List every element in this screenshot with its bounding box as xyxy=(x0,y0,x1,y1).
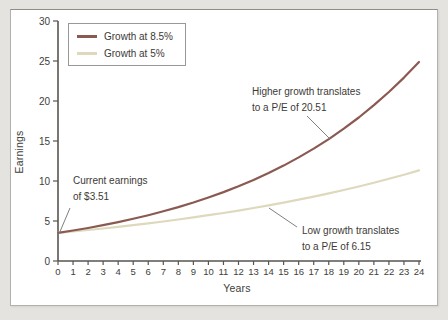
x-axis-title: Years xyxy=(207,282,267,294)
legend-item-growth-low: Growth at 5% xyxy=(77,46,179,60)
x-tick-label: 20 xyxy=(354,266,365,277)
x-tick-label: 5 xyxy=(131,266,136,277)
y-tick-label: 30 xyxy=(39,16,51,27)
x-tick-label: 22 xyxy=(384,266,395,277)
x-tick-label: 7 xyxy=(161,266,166,277)
x-tick-label: 11 xyxy=(219,266,229,277)
x-tick-label: 3 xyxy=(100,266,105,277)
x-tick-label: 21 xyxy=(369,266,380,277)
x-tick-label: 6 xyxy=(146,266,151,277)
annotation-line: Higher growth translates xyxy=(252,84,360,100)
y-tick-label: 15 xyxy=(39,136,51,147)
series-line-growth-at-8-5- xyxy=(58,62,419,233)
annotation-low-growth: Low growth translates to a P/E of 6.15 xyxy=(302,223,399,255)
screenshot-root: { "page": { "background_color": "#e5e3df… xyxy=(0,0,448,320)
legend-item-growth-high: Growth at 8.5% xyxy=(77,29,179,43)
y-tick-label: 10 xyxy=(39,176,51,187)
y-axis-title: Earnings xyxy=(13,120,25,184)
chart-legend: Growth at 8.5% Growth at 5% xyxy=(68,23,186,66)
annotation-line: Low growth translates xyxy=(302,223,399,239)
annotation-line: to a P/E of 6.15 xyxy=(302,239,399,255)
annotation-line: to a P/E of 20.51 xyxy=(252,100,360,116)
y-tick-label: 0 xyxy=(44,256,50,267)
x-tick-label: 13 xyxy=(248,266,259,277)
pointer-low-growth xyxy=(269,208,297,227)
x-tick-label: 14 xyxy=(263,266,274,277)
legend-label-growth-high: Growth at 8.5% xyxy=(104,31,173,42)
y-tick-label: 25 xyxy=(39,56,51,67)
annotation-line: of $3.51 xyxy=(73,189,147,205)
x-tick-label: 17 xyxy=(308,266,319,277)
annotation-line: Current earnings xyxy=(73,173,147,189)
x-tick-label: 15 xyxy=(278,266,289,277)
x-tick-label: 12 xyxy=(233,266,244,277)
x-tick-label: 10 xyxy=(203,266,214,277)
x-tick-label: 23 xyxy=(399,266,410,277)
x-tick-label: 18 xyxy=(323,266,334,277)
x-tick-label: 2 xyxy=(85,266,90,277)
x-tick-label: 4 xyxy=(116,266,121,277)
x-tick-label: 1 xyxy=(70,266,75,277)
x-tick-label: 8 xyxy=(176,266,181,277)
x-tick-label: 19 xyxy=(339,266,350,277)
figure-panel: 0510152025300123456789101112131415161718… xyxy=(10,9,438,306)
legend-label-growth-low: Growth at 5% xyxy=(104,48,165,59)
x-tick-label: 16 xyxy=(293,266,304,277)
y-tick-label: 20 xyxy=(39,96,51,107)
pointer-current-earnings xyxy=(59,208,70,234)
annotation-higher-growth: Higher growth translates to a P/E of 20.… xyxy=(252,84,360,116)
x-tick-label: 24 xyxy=(414,266,425,277)
annotation-current-earnings: Current earnings of $3.51 xyxy=(73,173,147,205)
y-tick-label: 5 xyxy=(44,216,50,227)
x-tick-label: 0 xyxy=(55,266,60,277)
legend-line-swatch-low xyxy=(77,52,97,55)
pointer-higher-growth xyxy=(307,116,330,139)
legend-line-swatch-high xyxy=(77,35,97,38)
x-tick-label: 9 xyxy=(191,266,196,277)
